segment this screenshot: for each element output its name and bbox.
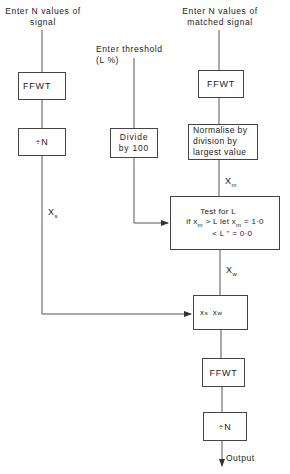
xm-label: Xm xyxy=(225,176,237,188)
xs-label: Xs xyxy=(48,207,58,219)
divide-n-signal-text: ÷N xyxy=(35,136,48,148)
xw-label: Xw xyxy=(226,265,237,277)
divide-n-output-text: ÷N xyxy=(218,421,231,433)
test-row1-mid: > L let x xyxy=(203,217,236,226)
multiply-b-sub: w xyxy=(217,307,222,319)
input-signal-line2: signal xyxy=(2,17,84,28)
test-row1-val: = 1·0 xyxy=(241,217,263,226)
output-label-text: Output xyxy=(226,453,255,463)
normalise-line2: division by xyxy=(193,136,237,147)
normalise-line1: Normalise by xyxy=(193,125,247,136)
input-threshold-line2: (L %) xyxy=(96,55,163,66)
test-title: Test for L xyxy=(186,207,264,217)
input-threshold-label: Enter threshold (L %) xyxy=(96,44,163,66)
ffwt-matched-block: FFWT xyxy=(198,70,244,98)
input-matched-line1: Enter N values of xyxy=(174,6,266,17)
input-threshold-line1: Enter threshold xyxy=(96,44,163,55)
xm-label-sub: m xyxy=(232,182,238,188)
ffwt-matched-text: FFWT xyxy=(207,78,235,90)
ffwt-signal-block: FFWT xyxy=(18,72,66,100)
ffwt-output-block: FFWT xyxy=(202,358,245,387)
ffwt-output-text: FFWT xyxy=(209,367,237,379)
normalise-line3: largest value xyxy=(193,147,246,158)
multiply-block: xs xw xyxy=(193,295,248,330)
divide-100-line2: by 100 xyxy=(119,143,149,154)
input-matched-line2: matched signal xyxy=(174,17,266,28)
ffwt-signal-text: FFWT xyxy=(23,80,51,92)
test-row1: if xm > L let xm = 1·0 xyxy=(186,217,264,230)
output-label: Output xyxy=(226,453,255,463)
input-signal-line1: Enter N values of xyxy=(2,6,84,17)
xs-label-sub: s xyxy=(55,213,59,219)
xw-label-sub: w xyxy=(233,271,238,277)
divide-100-line1: Divide xyxy=(120,132,148,143)
divide-100-block: Divide by 100 xyxy=(110,128,158,158)
test-row1-prefix: if x xyxy=(186,217,197,226)
input-signal-label: Enter N values of signal xyxy=(2,6,84,28)
input-matched-label: Enter N values of matched signal xyxy=(174,6,266,28)
divide-n-signal-block: ÷N xyxy=(18,128,66,156)
multiply-a-sub: s xyxy=(205,307,209,319)
threshold-test-text: Test for L if xm > L let xm = 1·0 < L " … xyxy=(186,207,264,240)
threshold-test-block: Test for L if xm > L let xm = 1·0 < L " … xyxy=(170,196,280,250)
test-row2: < L " = 0·0 xyxy=(186,229,264,239)
divide-n-output-block: ÷N xyxy=(203,412,247,441)
normalise-block: Normalise by division by largest value xyxy=(188,124,258,160)
